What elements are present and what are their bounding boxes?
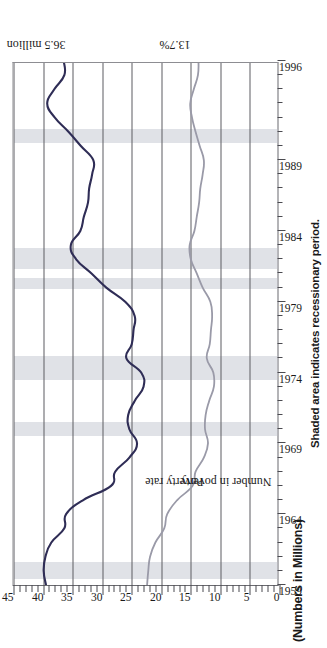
y-axis-tick-minor — [255, 585, 256, 592]
x-axis-tick-minor — [277, 329, 282, 330]
x-axis-tick-minor — [277, 457, 282, 458]
x-axis-tick-minor — [277, 542, 282, 543]
x-axis-tick-minor — [277, 145, 282, 146]
x-axis-tick-minor — [277, 202, 282, 203]
y-axis-label: 40 — [31, 591, 43, 603]
y-axis-tick-minor — [25, 585, 26, 592]
x-axis-tick-minor — [277, 88, 282, 89]
y-axis-tick-minor — [167, 585, 168, 592]
x-axis-tick-minor — [277, 272, 282, 273]
x-axis-tick-minor — [277, 357, 282, 358]
x-axis-tick-minor — [277, 103, 282, 104]
figure-footnote: Shaded area indicates recessionary perio… — [308, 219, 320, 448]
y-axis-tick-minor — [78, 585, 79, 592]
y-axis-label: 25 — [120, 591, 132, 603]
y-axis-tick-minor — [108, 585, 109, 592]
figure-title: (Numbers in Millions) — [290, 519, 304, 642]
x-axis-tick-minor — [277, 527, 282, 528]
x-axis-tick-minor — [277, 428, 282, 429]
y-axis-tick-minor — [261, 585, 262, 592]
y-axis-tick-minor — [19, 585, 20, 592]
figure-canvas: (Numbers in Millions) Shaded area indica… — [0, 0, 327, 648]
x-axis-label: 1979 — [279, 302, 302, 314]
y-axis-label: 5 — [244, 591, 250, 603]
x-axis-tick-minor — [277, 216, 282, 217]
series-group — [13, 63, 277, 585]
y-axis-tick-minor — [143, 585, 144, 592]
x-axis-tick-minor — [277, 485, 282, 486]
series-label-poverty-rate: Poverty rate — [145, 474, 203, 489]
y-axis-tick-minor — [238, 585, 239, 592]
plot-area: 051015202530354045 195919641969197419791… — [12, 62, 278, 586]
x-axis-tick-minor — [277, 244, 282, 245]
x-axis-label: 1964 — [279, 514, 302, 526]
line-number-in-poverty — [43, 63, 144, 585]
plot-inner — [13, 63, 277, 585]
x-axis-label: 1989 — [279, 160, 302, 172]
y-axis-label: 20 — [149, 591, 161, 603]
x-axis-tick-minor — [277, 471, 282, 472]
y-axis-tick-minor — [137, 585, 138, 592]
x-axis-tick-minor — [277, 386, 282, 387]
y-axis-label: 30 — [90, 591, 102, 603]
x-axis-label: 1969 — [279, 443, 302, 455]
x-axis-tick-minor — [277, 343, 282, 344]
x-axis-label: 1974 — [279, 373, 302, 385]
y-axis-label: 35 — [61, 591, 73, 603]
x-axis-tick-minor — [277, 287, 282, 288]
x-axis-tick-minor — [277, 499, 282, 500]
x-axis-tick-minor — [277, 400, 282, 401]
y-axis-tick-minor — [173, 585, 174, 592]
y-axis-tick-minor — [48, 585, 49, 592]
y-axis-tick-minor — [267, 585, 268, 592]
x-axis-label: 1984 — [279, 231, 302, 243]
x-axis-tick-minor — [277, 131, 282, 132]
x-axis-tick-minor — [277, 173, 282, 174]
line-poverty-rate — [147, 63, 214, 585]
y-axis-tick-minor — [232, 585, 233, 592]
y-axis-label: 45 — [2, 591, 14, 603]
y-axis-tick-minor — [196, 585, 197, 592]
y-axis-tick-minor — [202, 585, 203, 592]
x-axis-tick-minor — [277, 74, 282, 75]
rotated-figure-stage: (Numbers in Millions) Shaded area indica… — [0, 0, 327, 648]
y-axis-tick-minor — [84, 585, 85, 592]
x-axis-tick-minor — [277, 315, 282, 316]
annotation-peak-rate: 13.7% — [159, 37, 190, 52]
x-axis-tick-minor — [277, 570, 282, 571]
x-axis-tick-minor — [277, 258, 282, 259]
y-axis-tick-minor — [113, 585, 114, 592]
x-axis-tick-minor — [277, 414, 282, 415]
annotation-peak-number: 36.5 million — [6, 37, 65, 52]
y-axis-tick-minor — [54, 585, 55, 592]
y-axis-label: 10 — [208, 591, 220, 603]
y-axis-tick-minor — [226, 585, 227, 592]
x-axis-label: 1996 — [279, 61, 302, 73]
x-axis-tick-minor — [277, 117, 282, 118]
x-axis-label: 1959 — [279, 585, 302, 597]
x-axis-tick-minor — [277, 187, 282, 188]
x-axis-tick-minor — [277, 556, 282, 557]
y-axis-label: 15 — [179, 591, 191, 603]
